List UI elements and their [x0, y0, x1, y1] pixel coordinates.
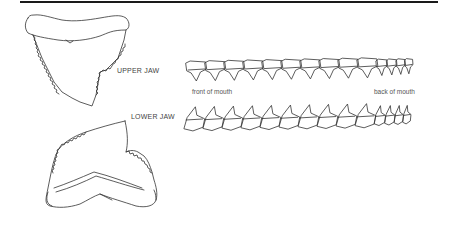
lower-row-tooth-gumline — [404, 114, 411, 115]
lower-row-tooth-gumline — [186, 119, 203, 120]
lower-row-tooth-gumline — [224, 118, 241, 119]
lower-row-tooth-gumline — [262, 118, 279, 119]
diagram-canvas — [0, 0, 449, 226]
lower-row-tooth-gumline — [243, 118, 260, 119]
upper-row-tooth-gumline — [188, 69, 205, 70]
lower-row-tooth-gumline — [395, 115, 402, 116]
lower-tooth-illustration — [46, 121, 157, 207]
lower-row-tooth-gumline — [205, 119, 222, 120]
upper-row-tooth — [281, 59, 302, 79]
upper-row-tooth-gumline — [321, 67, 338, 68]
lower-row-tooth-gumline — [386, 115, 394, 116]
upper-row-tooth — [300, 59, 321, 79]
lower-row-tooth-gumline — [319, 117, 336, 118]
upper-row-tooth-gumline — [264, 68, 281, 69]
upper-tooth-crown — [33, 30, 126, 106]
upper-row-tooth-gumline — [340, 66, 357, 67]
lower-jaw-label: LOWER JAW — [131, 113, 175, 120]
lower-row-tooth-gumline — [357, 116, 374, 117]
lower-tooth-base — [47, 190, 156, 206]
upper-row-tooth-gumline — [377, 66, 386, 67]
upper-row-tooth — [357, 58, 378, 78]
upper-row-tooth-gumline — [245, 68, 262, 69]
back-of-mouth-caption: back of mouth — [374, 88, 415, 95]
upper-row-tooth — [224, 60, 245, 80]
upper-row-tooth — [376, 59, 387, 75]
upper-row-tooth-gumline — [283, 67, 300, 68]
upper-row-tooth — [405, 59, 413, 74]
upper-tooth-serrations-left — [33, 35, 59, 94]
upper-row-tooth-gumline — [388, 65, 396, 66]
upper-row-tooth — [319, 59, 340, 79]
upper-tooth-row — [186, 58, 413, 81]
upper-row-tooth-gumline — [207, 69, 224, 70]
lower-row-tooth-gumline — [281, 117, 298, 118]
upper-row-tooth-gumline — [302, 67, 319, 68]
upper-row-tooth — [205, 61, 226, 81]
front-of-mouth-caption: front of mouth — [192, 88, 232, 95]
lower-row-tooth-gumline — [338, 116, 355, 117]
upper-row-tooth — [243, 60, 264, 80]
upper-tooth-notch — [66, 40, 73, 43]
upper-row-tooth-gumline — [406, 64, 413, 65]
upper-row-tooth — [338, 58, 359, 78]
upper-row-tooth — [396, 59, 405, 75]
lower-tooth-row — [184, 104, 411, 131]
upper-row-tooth — [387, 59, 397, 75]
upper-row-tooth-gumline — [397, 65, 404, 66]
upper-row-tooth-gumline — [359, 66, 376, 67]
upper-jaw-label: UPPER JAW — [117, 67, 159, 74]
upper-tooth-illustration — [25, 15, 129, 106]
lower-row-tooth-gumline — [300, 117, 317, 118]
upper-row-tooth — [186, 61, 207, 81]
upper-row-tooth-gumline — [226, 68, 243, 69]
upper-tooth-root — [25, 15, 129, 41]
lower-row-tooth-gumline — [375, 116, 384, 117]
upper-row-tooth — [262, 60, 283, 80]
